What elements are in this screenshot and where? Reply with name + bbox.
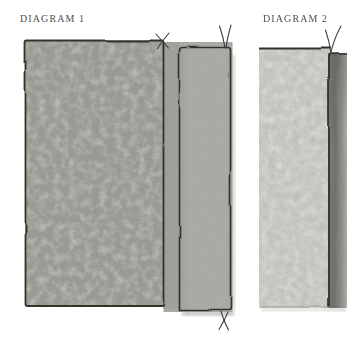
fabric-panel-texture-light — [25, 40, 164, 306]
panel-bottom-shadow — [261, 308, 330, 312]
diagram1-label: DIAGRAM 1 — [20, 13, 85, 24]
fabric-panel-texture-light — [259, 48, 330, 308]
diagram2-figure — [259, 26, 347, 312]
diagram1-figure — [25, 25, 236, 330]
diagram2-label: DIAGRAM 2 — [263, 13, 328, 24]
strip-bottom-shadow — [329, 308, 346, 312]
binding-strip-texture — [328, 53, 347, 308]
illustration-canvas: DIAGRAM 1 DIAGRAM 2 — [0, 0, 347, 337]
sewing-diagrams-figure — [0, 0, 347, 337]
binding-strip-texture — [164, 42, 233, 312]
